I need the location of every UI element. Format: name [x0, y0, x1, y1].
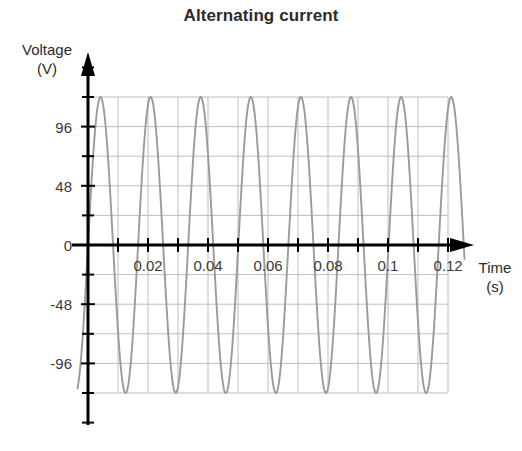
up-arrow-icon: [81, 52, 95, 76]
x-tick-label: 0.1: [378, 257, 399, 274]
y-tick-label: -48: [50, 296, 72, 313]
y-tick-label: 0: [64, 237, 72, 254]
chart-figure: Alternating current Voltage (V) Time (s)…: [0, 0, 522, 451]
right-arrow-icon: [450, 238, 474, 252]
plot-area: 0.020.040.060.080.10.1296480-48-96: [0, 0, 522, 451]
x-tick-label: 0.12: [433, 257, 462, 274]
x-tick-label: 0.06: [253, 257, 282, 274]
y-tick-label: -96: [50, 355, 72, 372]
y-tick-label: 96: [55, 119, 72, 136]
x-tick-label: 0.08: [313, 257, 342, 274]
y-tick-label: 48: [55, 178, 72, 195]
x-tick-label: 0.04: [193, 257, 222, 274]
x-tick-label: 0.02: [133, 257, 162, 274]
